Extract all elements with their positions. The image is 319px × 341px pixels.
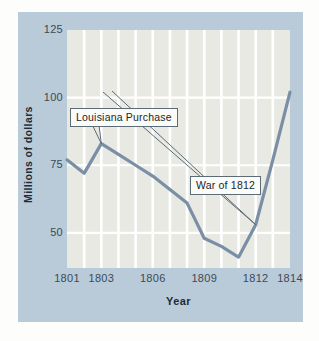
y-axis-tick-label: 50: [19, 226, 63, 238]
x-axis-tick-label: 1801: [54, 272, 80, 284]
x-axis-tick-label: 1806: [140, 272, 166, 284]
x-axis-title: Year: [67, 295, 290, 307]
x-axis-tick-labels: 180118031806180918121814: [67, 272, 290, 290]
x-axis-tick-label: 1809: [191, 272, 217, 284]
annotation-louisiana-purchase: Louisiana Purchase: [70, 108, 178, 127]
chart-figure: 1251007550 Louisiana Purchase War of 181…: [0, 0, 319, 341]
x-axis-tick-label: 1814: [277, 272, 303, 284]
y-axis-title: Millions of dollars: [22, 95, 36, 215]
plot-area: [67, 30, 290, 268]
y-axis-tick-label: 125: [19, 23, 63, 35]
x-axis-tick-label: 1803: [88, 272, 114, 284]
gridlines: [67, 30, 290, 268]
annotation-war-of-1812: War of 1812: [190, 176, 261, 195]
x-axis-tick-label: 1812: [243, 272, 269, 284]
plot-svg: [67, 30, 290, 268]
